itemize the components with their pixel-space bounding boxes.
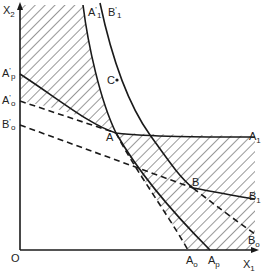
label-Ao-prime: A'o [2,93,16,108]
label-Ap-prime: A'p [2,66,16,81]
label-point-C: C [107,74,115,86]
label-A1-prime: A'1 [88,5,102,20]
isoquant-diagram: X2 X1 O A'1 B'1 A'p A'o B'o C A B A1 B1 … [0,0,261,276]
label-Bo-prime: B'o [2,117,16,132]
label-B1-prime: B'1 [108,5,122,20]
hatched-region-lower [116,133,255,250]
point-C-marker [115,78,118,81]
label-Ap: Ap [208,254,220,269]
label-point-B: B [192,176,199,188]
label-point-A: A [106,131,114,143]
x-axis-label: X1 [243,258,255,273]
y-axis-label: X2 [3,4,15,19]
origin-label: O [11,252,20,264]
label-Ao: Ao [186,254,198,269]
hatched-region-upper [20,5,116,133]
